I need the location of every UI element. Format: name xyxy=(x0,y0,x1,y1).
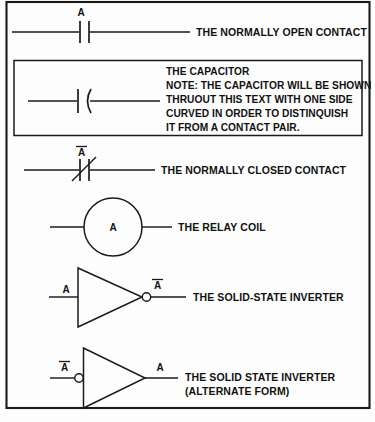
inverter-input-label: A xyxy=(62,284,69,295)
normally-closed-slash xyxy=(72,157,96,181)
normally-closed-contact-designator: A xyxy=(78,147,85,158)
inverter-output-label: A xyxy=(154,280,161,291)
capacitor-note-line-1: THE CAPACITOR xyxy=(166,66,250,77)
inverter-symbol xyxy=(49,268,186,327)
inverter-alternate-output-label: A xyxy=(156,362,163,373)
normally-open-contact-designator: A xyxy=(77,7,84,18)
outer-border xyxy=(7,2,370,408)
inverter-output-bubble xyxy=(142,293,150,301)
inverter-alternate-input-label: A xyxy=(61,362,68,373)
normally-open-contact-symbol xyxy=(12,21,190,43)
inverter-alternate-caption-line-1: THE SOLID STATE INVERTER xyxy=(185,371,336,383)
inverter-alternate-caption-line-2: (ALTERNATE FORM) xyxy=(185,385,289,397)
inverter-triangle xyxy=(78,268,142,327)
relay-coil-designator: A xyxy=(109,222,116,233)
capacitor-note-line-5: IT FROM A CONTACT PAIR. xyxy=(166,122,300,133)
normally-open-contact-caption: THE NORMALLY OPEN CONTACT xyxy=(196,26,367,38)
relay-coil-caption: THE RELAY COIL xyxy=(178,221,266,233)
normally-closed-contact-caption: THE NORMALLY CLOSED CONTACT xyxy=(161,164,347,176)
inverter-caption: THE SOLID-STATE INVERTER xyxy=(193,291,344,303)
capacitor-note-line-4: CURVED IN ORDER TO DISTINQUISH xyxy=(166,108,348,119)
capacitor-note-line-3: THRUOUT THIS TEXT WITH ONE SIDE xyxy=(166,94,353,105)
capacitor-note-line-2: NOTE: THE CAPACITOR WILL BE SHOWN xyxy=(166,80,371,91)
capacitor-symbol xyxy=(28,89,160,113)
inverter-input-bubble xyxy=(75,374,83,382)
diagram-page: A THE NORMALLY OPEN CONTACT THE CAPACITO… xyxy=(0,0,375,422)
normally-closed-contact-symbol xyxy=(24,157,155,181)
inverter-symbol-alternate xyxy=(50,348,178,408)
inverter-triangle xyxy=(84,348,146,408)
